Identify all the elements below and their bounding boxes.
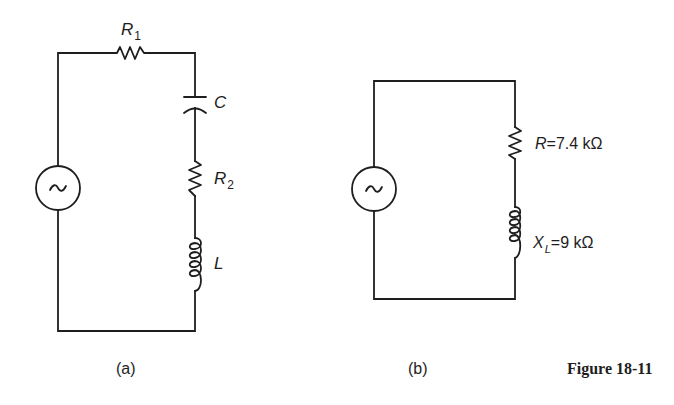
resistor-r-icon — [509, 127, 521, 159]
sine-wave-a-icon — [50, 185, 66, 191]
wire-a-top-left — [58, 53, 114, 166]
wire-b-bottom — [374, 211, 515, 299]
label-r1-symbol: R — [121, 20, 133, 39]
sine-wave-b-icon — [366, 186, 382, 192]
label-r1: R1 — [121, 20, 141, 40]
label-r2-symbol: R — [214, 169, 226, 188]
circuit-b — [352, 81, 521, 299]
label-r-value: R=7.4 kΩ — [535, 135, 603, 153]
resistor-r1-icon — [114, 47, 147, 59]
label-r2: R2 — [214, 169, 234, 189]
wire-a-top-right — [147, 53, 195, 97]
inductor-xl-icon — [510, 207, 521, 258]
wire-b-top — [374, 81, 515, 167]
label-xl-value: XL=9 kΩ — [533, 234, 593, 252]
label-xl-symbol: X — [533, 234, 544, 251]
label-r-symbol: R — [535, 135, 547, 152]
label-r-value-text: =7.4 kΩ — [547, 135, 603, 152]
label-xl-subscript: L — [545, 243, 551, 255]
circuit-diagrams — [0, 0, 674, 405]
label-r1-subscript: 1 — [134, 29, 141, 43]
circuit-a — [36, 47, 206, 331]
label-r2-subscript: 2 — [227, 178, 234, 192]
caption-a: (a) — [116, 360, 136, 378]
label-l: L — [214, 254, 223, 274]
inductor-l-icon — [190, 238, 201, 291]
wire-a-bottom — [58, 210, 195, 331]
resistor-r2-icon — [189, 161, 201, 196]
label-xl-value-text: =9 kΩ — [551, 234, 594, 251]
label-c: C — [214, 93, 226, 113]
figure-caption: Figure 18-11 — [567, 360, 652, 378]
caption-b: (b) — [408, 360, 428, 378]
